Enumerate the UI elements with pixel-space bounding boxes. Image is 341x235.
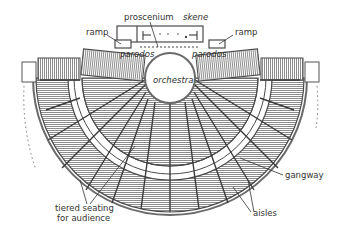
label-skene: skene bbox=[183, 12, 208, 22]
label-gangway: gangway bbox=[285, 170, 324, 180]
label-aisles: aisles bbox=[253, 208, 278, 218]
label-ramp-right: ramp bbox=[235, 27, 257, 37]
label-parodos-right: parodos bbox=[191, 49, 227, 59]
label-ramp-left: ramp bbox=[86, 27, 108, 37]
label-parodos-left: parodos bbox=[119, 49, 155, 59]
greek-theatre-diagram: proscenium skene ramp ramp parodos parod… bbox=[0, 0, 341, 235]
label-proscenium: proscenium bbox=[124, 12, 174, 22]
skene-building bbox=[115, 26, 225, 48]
label-for-audience: for audience bbox=[57, 213, 110, 223]
label-tiered-seating: tiered seating bbox=[55, 203, 114, 213]
right-wing-block bbox=[305, 62, 319, 82]
left-wing-block bbox=[22, 62, 36, 82]
label-orchestra: orchestra bbox=[153, 75, 193, 85]
